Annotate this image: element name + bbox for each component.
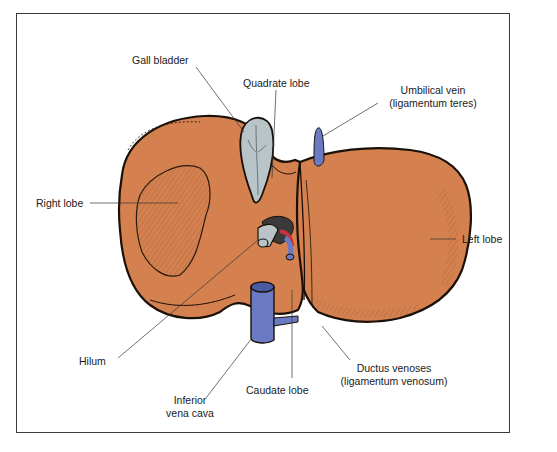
label-left-lobe: Left lobe bbox=[462, 233, 502, 246]
label-inferior-vena-cava: Inferior vena cava bbox=[155, 394, 225, 420]
label-hilum: Hilum bbox=[79, 355, 106, 368]
label-gall-bladder: Gall bladder bbox=[132, 54, 189, 67]
umbilical-vein-shape bbox=[314, 128, 324, 166]
label-caudate-lobe: Caudate lobe bbox=[246, 384, 308, 397]
label-ductus-venoses: Ductus venoses (ligamentum venosum) bbox=[330, 362, 458, 388]
left-lobe-shape bbox=[295, 148, 471, 322]
label-right-lobe: Right lobe bbox=[36, 197, 83, 210]
label-umbilical-vein-line1: Umbilical vein bbox=[378, 84, 488, 97]
label-ductus-line2: (ligamentum venosum) bbox=[330, 375, 458, 388]
label-quadrate-lobe: Quadrate lobe bbox=[243, 77, 310, 90]
label-ivc-line1: Inferior bbox=[155, 394, 225, 407]
label-umbilical-vein: Umbilical vein (ligamentum teres) bbox=[378, 84, 488, 110]
label-umbilical-vein-line2: (ligamentum teres) bbox=[378, 97, 488, 110]
label-ivc-line2: vena cava bbox=[155, 407, 225, 420]
label-ductus-line1: Ductus venoses bbox=[330, 362, 458, 375]
